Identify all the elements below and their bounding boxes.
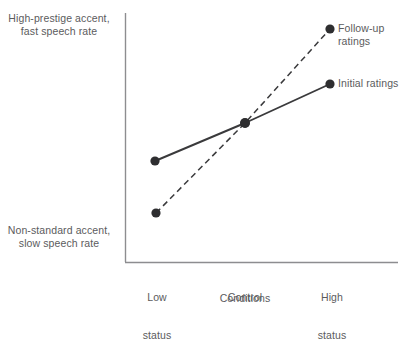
data-point-followup-low <box>151 208 160 217</box>
y-axis-bottom-label-line1: Non-standard accent, slow speech rate <box>8 224 110 249</box>
x-tick-high-line2: status <box>292 329 372 342</box>
x-tick-low-line2: status <box>117 329 197 342</box>
x-tick-low-line1: Low <box>117 291 197 304</box>
y-axis-bottom-label: Non-standard accent, slow speech rate <box>0 224 118 249</box>
data-point-initial-low <box>150 156 159 165</box>
data-point-initial-high <box>325 79 334 88</box>
data-point-followup-high <box>325 24 334 33</box>
series-label-initial-ratings: Initial ratings <box>338 77 410 90</box>
y-axis-top-label: High-prestige accent, fast speech rate <box>0 12 118 37</box>
x-tick-label-high-status: High status <box>292 266 372 343</box>
series-label-followup-ratings: Follow-up ratings <box>338 22 410 47</box>
x-axis-title: Conditions <box>205 292 285 305</box>
series-initial-ratings <box>150 79 334 165</box>
x-tick-label-low-status: Low status <box>117 266 197 343</box>
data-point-initial-control <box>240 118 250 128</box>
x-tick-high-line1: High <box>292 291 372 304</box>
y-axis-top-label-line1: High-prestige accent, fast speech rate <box>8 12 109 37</box>
